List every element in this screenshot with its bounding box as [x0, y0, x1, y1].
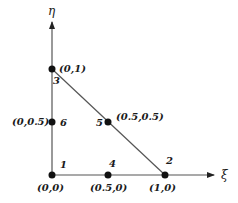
node-4-coord: (0.5,0)	[90, 182, 128, 194]
node-4	[105, 172, 112, 179]
node-3	[49, 66, 56, 73]
node-1-number: 1	[60, 159, 67, 170]
node-6	[49, 119, 56, 126]
node-2-coord: (1,0)	[149, 182, 176, 194]
xi-axis-label: ξ	[221, 168, 229, 182]
node-1	[49, 172, 56, 179]
node-1-coord: (0,0)	[37, 182, 64, 194]
node-4-number: 4	[109, 158, 116, 169]
node-5	[105, 119, 112, 126]
node-3-number: 3	[53, 75, 60, 86]
node-5-coord: (0.5,0.5)	[116, 111, 164, 123]
node-6-coord: (0,0.5)	[12, 116, 50, 128]
node-5-number: 5	[96, 117, 103, 128]
node-3-coord: (0,1)	[59, 63, 86, 75]
node-6-number: 6	[60, 117, 67, 128]
node-2	[162, 172, 169, 179]
node-2-number: 2	[165, 155, 173, 166]
triangle-element-diagram: η ξ 1 2 3 4 5 6 (0,0) (1,0) (0,1) (0.5,0…	[0, 0, 238, 203]
eta-axis-label: η	[48, 4, 56, 18]
